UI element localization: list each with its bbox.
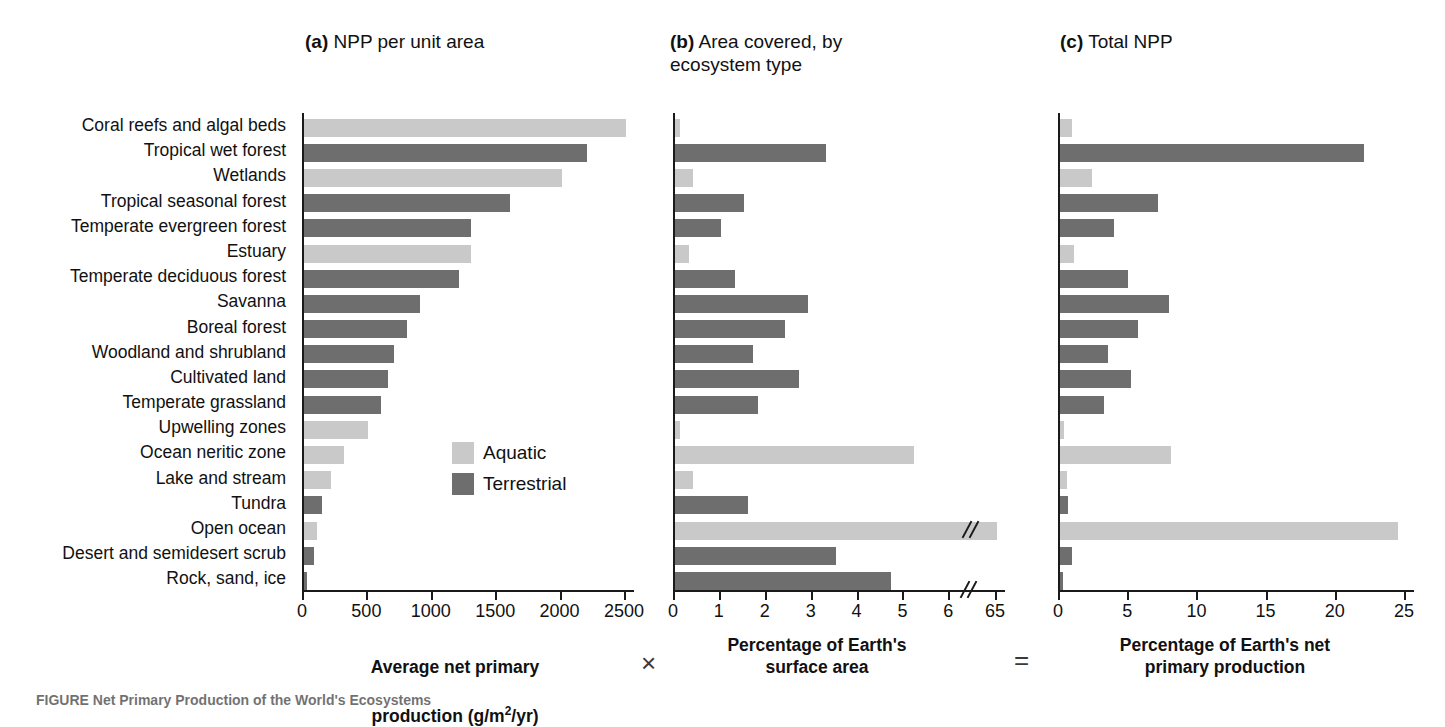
x-tick [1335,592,1337,600]
bar-row [675,191,997,216]
bar-b-4 [675,219,721,237]
panel-a-bars [304,115,626,594]
bar-a-18 [304,572,307,590]
legend: Aquatic Terrestrial [452,437,566,499]
category-label: Coral reefs and algal beds [0,113,294,138]
panel-a-letter: (a) [305,31,328,52]
x-tick-label: 10 [1161,601,1231,622]
category-label: Temperate evergreen forest [0,214,294,239]
bar-row [1060,543,1398,568]
bar-row [1060,241,1398,266]
bar-c-8 [1060,320,1138,338]
bar-row [304,518,626,543]
x-tick [366,592,368,600]
category-label: Savanna [0,289,294,314]
bar-row [675,568,997,593]
x-tick [948,592,950,600]
bar-c-11 [1060,396,1104,414]
bar-row [675,317,997,342]
bar-a-8 [304,320,407,338]
bar-row [675,518,997,543]
bar-c-16 [1060,522,1398,540]
bar-c-9 [1060,345,1108,363]
bar-a-10 [304,370,388,388]
category-label: Upwelling zones [0,415,294,440]
panel-a-plot: 05001000150020002500 [302,113,632,592]
panel-b-plot: 012345665 [673,113,1003,592]
legend-swatch-aquatic-icon [452,442,474,464]
x-tick-label: 0 [1023,601,1093,622]
x-tick-label: 0 [267,601,337,622]
bar-row [675,115,997,140]
panel-c-letter: (c) [1060,31,1083,52]
panel-b-axis-caption: Percentage of Earth's surface area [672,634,962,678]
bar-a-9 [304,345,394,363]
panel-a-title: (a) NPP per unit area [305,30,484,53]
bar-row [304,241,626,266]
panel-a-axis-caption: Average net primary production (g/m2/yr) [300,634,610,727]
bar-row [304,392,626,417]
bar-row [304,568,626,593]
bar-b-7 [675,295,808,313]
bar-c-13 [1060,446,1171,464]
category-label: Temperate deciduous forest [0,264,294,289]
category-label: Tropical wet forest [0,138,294,163]
bar-row [304,317,626,342]
legend-label-aquatic: Aquatic [483,442,546,464]
panel-a-title-text: NPP per unit area [334,31,485,52]
caption-a-line2-post: /yr) [511,706,538,726]
category-label: Tundra [0,491,294,516]
bar-b-5 [675,245,689,263]
x-tick [1127,592,1129,600]
bar-row [675,165,997,190]
x-tick-label: 1500 [460,601,530,622]
panel-b-bars [675,115,997,594]
category-label: Open ocean [0,516,294,541]
bar-row [1060,191,1398,216]
bar-c-14 [1060,471,1067,489]
bar-break-icon [966,520,982,540]
panel-b-title: (b) Area covered, by ecosystem type [670,30,842,76]
bar-b-12 [675,421,680,439]
x-tick-label: 25 [1369,601,1439,622]
x-tick [811,592,813,600]
x-tick-label: 500 [331,601,401,622]
bar-a-4 [304,219,471,237]
x-tick [1404,592,1406,600]
bar-row [675,291,997,316]
x-tick [1266,592,1268,600]
category-label: Wetlands [0,163,294,188]
panel-c-plot: 0510152025 [1058,113,1408,592]
bar-c-6 [1060,270,1128,288]
bar-b-2 [675,169,693,187]
x-tick [857,592,859,600]
bar-b-15 [675,496,748,514]
bar-row [675,493,997,518]
multiply-operator-icon: × [641,648,656,679]
bar-c-17 [1060,547,1072,565]
legend-label-terrestrial: Terrestrial [483,473,566,495]
bar-row [675,543,997,568]
bar-row [304,543,626,568]
bar-c-4 [1060,219,1114,237]
bar-c-15 [1060,496,1068,514]
bar-b-11 [675,396,758,414]
bar-row [304,266,626,291]
panel-c-axis-caption: Percentage of Earth's net primary produc… [1055,634,1395,678]
x-tick [302,592,304,600]
axis-break-icon [964,580,980,600]
bar-row [304,191,626,216]
bar-row [1060,493,1398,518]
panel-c-title: (c) Total NPP [1060,30,1173,53]
bar-a-2 [304,169,562,187]
category-label: Estuary [0,239,294,264]
bar-a-6 [304,270,459,288]
bar-b-14 [675,471,693,489]
x-tick-label: 65 [960,601,1030,622]
bar-a-17 [304,547,314,565]
bar-row [1060,115,1398,140]
panel-b-letter: (b) [670,31,694,52]
bar-a-14 [304,471,331,489]
bar-b-16 [675,522,997,540]
bar-row [1060,216,1398,241]
